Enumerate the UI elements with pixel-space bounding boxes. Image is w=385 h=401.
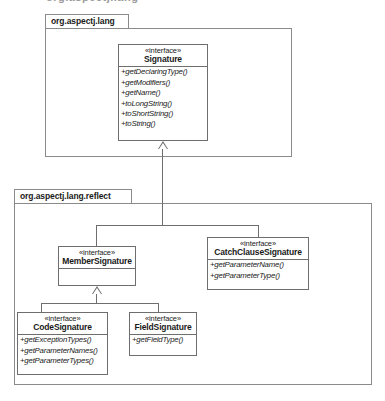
generalization-trunk-member-signature <box>96 294 97 303</box>
operation-item: +toLongString() <box>119 99 207 109</box>
operation-item: +getDeclaringType() <box>119 67 207 77</box>
generalization-drop-member-signature <box>96 225 97 246</box>
class-box-member-signature[interactable]: «interface» MemberSignature <box>58 246 136 286</box>
generalization-split-bar-member-signature <box>41 303 159 304</box>
class-box-catch-clause-signature[interactable]: «interface» CatchClauseSignature +getPar… <box>207 237 309 290</box>
operations-compartment-member-signature <box>59 269 135 278</box>
package-tab-reflect: org.aspectj.lang.reflect <box>14 189 132 204</box>
class-name-label: FieldSignature <box>133 323 193 332</box>
clipped-heading-text: org.aspectj.lang <box>46 0 221 3</box>
operations-compartment-signature: +getDeclaringType() +getModifiers() +get… <box>119 67 207 130</box>
package-tab-lang: org.aspectj.lang <box>45 14 129 29</box>
operation-item: +toShortString() <box>119 109 207 119</box>
class-name-label: CatchClauseSignature <box>211 248 305 257</box>
operation-item: +getModifiers() <box>119 78 207 88</box>
package-label-reflect: org.aspectj.lang.reflect <box>20 192 111 201</box>
class-name-label: Signature <box>122 55 204 64</box>
class-header-signature: «interface» Signature <box>119 45 207 66</box>
operation-item: +getParameterNames() <box>18 346 107 356</box>
operation-item: +getParameterType() <box>208 271 308 281</box>
class-header-catch-clause-signature: «interface» CatchClauseSignature <box>208 238 308 259</box>
class-name-label: CodeSignature <box>21 323 104 332</box>
clipped-heading-artifact: org.aspectj.lang <box>46 0 221 4</box>
operation-item: +toString() <box>119 119 207 129</box>
operation-item: +getName() <box>119 88 207 98</box>
class-name-label: MemberSignature <box>62 257 132 266</box>
operations-compartment-catch-clause-signature: +getParameterName() +getParameterType() <box>208 260 308 281</box>
operation-item: +getParameterTypes() <box>18 356 107 366</box>
generalization-drop-catch-clause-signature <box>258 225 259 237</box>
operation-item: +getParameterName() <box>208 260 308 270</box>
operation-item: +getExceptionTypes() <box>18 335 107 345</box>
class-header-member-signature: «interface» MemberSignature <box>59 247 135 268</box>
generalization-drop-field-signature <box>158 303 159 312</box>
operation-item: +getFieldType() <box>130 335 196 345</box>
class-box-code-signature[interactable]: «interface» CodeSignature +getExceptionT… <box>17 312 108 375</box>
class-box-field-signature[interactable]: «interface» FieldSignature +getFieldType… <box>129 312 197 356</box>
class-box-signature[interactable]: «interface» Signature +getDeclaringType(… <box>118 44 208 141</box>
generalization-drop-code-signature <box>41 303 42 312</box>
class-header-code-signature: «interface» CodeSignature <box>18 313 107 334</box>
generalization-trunk-signature <box>162 149 163 225</box>
generalization-split-bar-signature <box>96 225 259 226</box>
class-header-field-signature: «interface» FieldSignature <box>130 313 196 334</box>
operations-compartment-code-signature: +getExceptionTypes() +getParameterNames(… <box>18 335 107 366</box>
operations-compartment-field-signature: +getFieldType() <box>130 335 196 345</box>
package-label-lang: org.aspectj.lang <box>51 17 115 26</box>
uml-class-diagram: org.aspectj.lang org.aspectj.lang «inter… <box>0 0 385 401</box>
